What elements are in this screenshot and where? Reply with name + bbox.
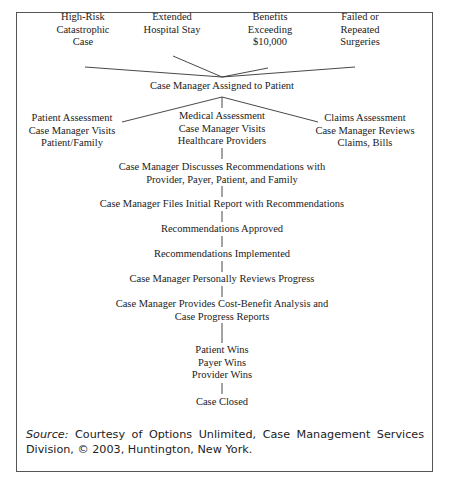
trigger-line: High-Risk (56, 11, 109, 24)
step-line: Case Progress Reports (116, 311, 329, 324)
step-line: Provider, Payer, Patient, and Family (119, 174, 325, 187)
assessment-line: Case Manager Visits (178, 123, 266, 136)
assessment-line: Claims Assessment (315, 112, 414, 125)
trigger-failed-surgeries: Failed or Repeated Surgeries (340, 11, 379, 49)
step-line: Case Manager Personally Reviews Progress (130, 273, 315, 286)
step-cost-benefit-analysis: Case Manager Provides Cost-Benefit Analy… (116, 298, 329, 323)
step-case-closed: Case Closed (196, 396, 248, 409)
assessment-line: Medical Assessment (178, 110, 266, 123)
trigger-line: Failed or (340, 11, 379, 24)
assigned-label: Case Manager Assigned to Patient (150, 80, 294, 93)
step-recommendations-implemented: Recommendations Implemented (154, 248, 290, 261)
step-line: Payer Wins (192, 357, 252, 370)
trigger-line: Extended (144, 11, 201, 24)
source-text: Courtesy of Options Unlimited, Case Mana… (26, 428, 424, 456)
step-line: Recommendations Implemented (154, 248, 290, 261)
source-label: Source: (26, 428, 68, 441)
trigger-line: Benefits (248, 11, 292, 24)
step-line: Recommendations Approved (161, 223, 283, 236)
trigger-line: Exceeding (248, 24, 292, 37)
source-caption: Source: Courtesy of Options Unlimited, C… (26, 428, 424, 457)
assessment-line: Patient/Family (29, 137, 116, 150)
step-line: Case Closed (196, 396, 248, 409)
step-line: Case Manager Provides Cost-Benefit Analy… (116, 298, 329, 311)
step-discuss-recommendations: Case Manager Discusses Recommendations w… (119, 161, 325, 186)
step-line: Case Manager Discusses Recommendations w… (119, 161, 325, 174)
step-line: Provider Wins (192, 369, 252, 382)
trigger-high-risk: High-Risk Catastrophic Case (56, 11, 109, 49)
assessment-line: Healthcare Providers (178, 135, 266, 148)
trigger-line: Repeated (340, 24, 379, 37)
assessment-line: Patient Assessment (29, 112, 116, 125)
assessment-line: Case Manager Reviews (315, 125, 414, 138)
step-recommendations-approved: Recommendations Approved (161, 223, 283, 236)
step-line: Patient Wins (192, 344, 252, 357)
connector-lines (0, 0, 451, 490)
medical-assessment: Medical Assessment Case Manager Visits H… (178, 110, 266, 148)
case-manager-assigned: Case Manager Assigned to Patient (150, 80, 294, 93)
claims-assessment: Claims Assessment Case Manager Reviews C… (315, 112, 414, 150)
patient-assessment: Patient Assessment Case Manager Visits P… (29, 112, 116, 150)
trigger-benefits: Benefits Exceeding $10,000 (248, 11, 292, 49)
trigger-line: Surgeries (340, 36, 379, 49)
step-outcomes-wins: Patient Wins Payer Wins Provider Wins (192, 344, 252, 382)
trigger-line: Case (56, 36, 109, 49)
trigger-line: $10,000 (248, 36, 292, 49)
assessment-line: Case Manager Visits (29, 125, 116, 138)
step-reviews-progress: Case Manager Personally Reviews Progress (130, 273, 315, 286)
step-files-initial-report: Case Manager Files Initial Report with R… (100, 198, 344, 211)
assessment-line: Claims, Bills (315, 137, 414, 150)
trigger-line: Hospital Stay (144, 24, 201, 37)
step-line: Case Manager Files Initial Report with R… (100, 198, 344, 211)
trigger-extended-stay: Extended Hospital Stay (144, 11, 201, 36)
trigger-line: Catastrophic (56, 24, 109, 37)
